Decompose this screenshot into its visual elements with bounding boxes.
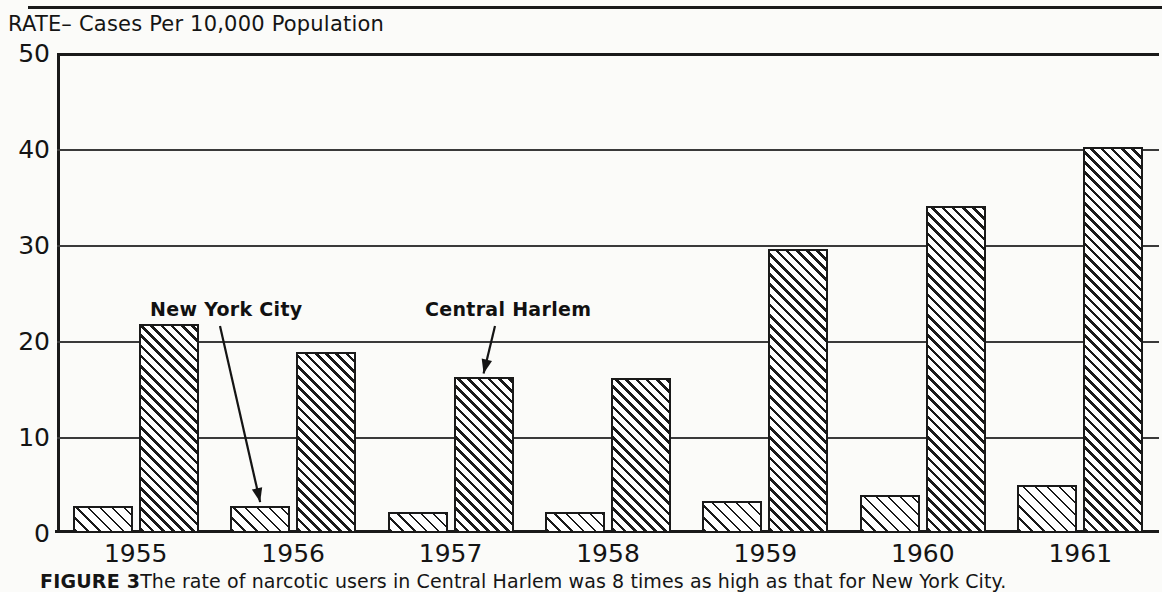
figure-caption-text: The rate of narcotic users in Central Ha… xyxy=(140,570,1006,592)
annotation-label-central-harlem: Central Harlem xyxy=(425,298,591,320)
bar-central-harlem-1959 xyxy=(768,249,828,533)
bar-new-york-city-1958 xyxy=(545,512,605,533)
bar-central-harlem-1955 xyxy=(139,324,199,533)
gridline-10 xyxy=(57,437,1159,439)
bar-new-york-city-1961 xyxy=(1017,485,1077,533)
bar-new-york-city-1955 xyxy=(73,506,133,533)
figure-page: RATE– Cases Per 10,000 Population 010203… xyxy=(0,0,1162,592)
bar-central-harlem-1956 xyxy=(296,352,356,533)
bar-central-harlem-1958 xyxy=(611,378,671,533)
x-tick-label-1960: 1960 xyxy=(891,539,955,568)
x-axis-tick-labels: 1955195619571958195919601961 xyxy=(57,539,1159,573)
x-tick-label-1957: 1957 xyxy=(419,539,483,568)
y-tick-label-30: 30 xyxy=(0,231,50,260)
y-axis-title: RATE– Cases Per 10,000 Population xyxy=(8,12,384,36)
annotation-label-new-york-city: New York City xyxy=(150,298,302,320)
bar-new-york-city-1957 xyxy=(388,512,448,533)
gridline-30 xyxy=(57,245,1159,247)
y-axis-tick-labels: 01020304050 xyxy=(0,53,50,533)
gridline-40 xyxy=(57,149,1159,151)
bar-new-york-city-1960 xyxy=(860,495,920,533)
plot-axis-x-line xyxy=(55,530,1159,533)
x-tick-label-1961: 1961 xyxy=(1048,539,1112,568)
y-tick-label-10: 10 xyxy=(0,423,50,452)
bar-central-harlem-1961 xyxy=(1083,147,1143,533)
bar-central-harlem-1957 xyxy=(454,377,514,533)
plot-border-top xyxy=(57,53,1159,56)
y-tick-label-50: 50 xyxy=(0,39,50,68)
bar-new-york-city-1956 xyxy=(230,506,290,533)
bar-new-york-city-1959 xyxy=(702,501,762,533)
x-tick-label-1955: 1955 xyxy=(104,539,168,568)
y-tick-label-40: 40 xyxy=(0,135,50,164)
x-tick-label-1959: 1959 xyxy=(734,539,798,568)
bar-central-harlem-1960 xyxy=(926,206,986,533)
y-tick-label-0: 0 xyxy=(0,519,50,548)
figure-caption: FIGURE 3The rate of narcotic users in Ce… xyxy=(40,570,1162,592)
top-rule-divider xyxy=(28,6,1162,9)
x-tick-label-1956: 1956 xyxy=(261,539,325,568)
figure-caption-label: FIGURE 3 xyxy=(40,570,140,592)
plot-axis-y-line xyxy=(57,53,60,533)
y-tick-label-20: 20 xyxy=(0,327,50,356)
gridline-20 xyxy=(57,341,1159,343)
x-tick-label-1958: 1958 xyxy=(576,539,640,568)
plot-area xyxy=(57,53,1159,533)
